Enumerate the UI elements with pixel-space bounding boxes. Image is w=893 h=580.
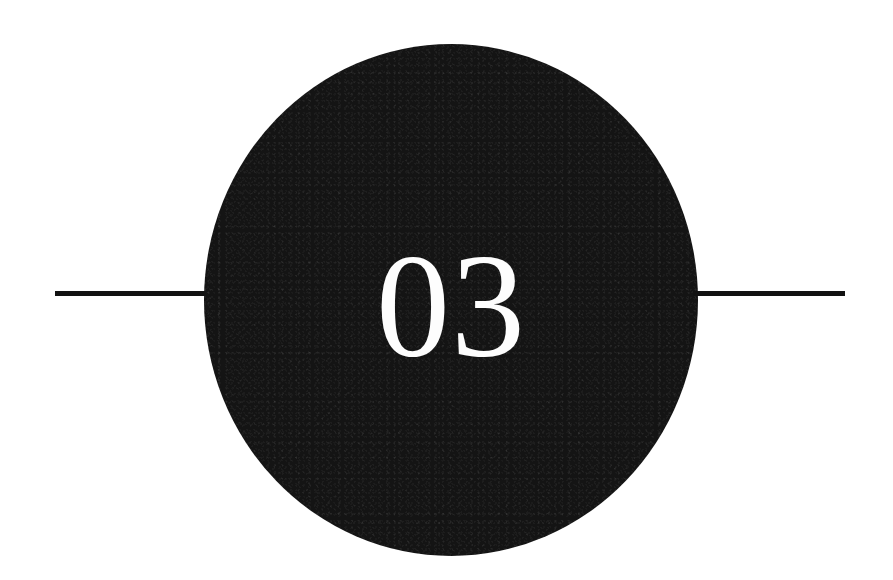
chapter-number-disc: 03 — [204, 44, 698, 556]
page-canvas: 03 — [0, 0, 893, 580]
divider-rule-right — [693, 291, 845, 296]
chapter-number-label: 03 — [204, 232, 698, 380]
divider-rule-left — [55, 291, 213, 296]
